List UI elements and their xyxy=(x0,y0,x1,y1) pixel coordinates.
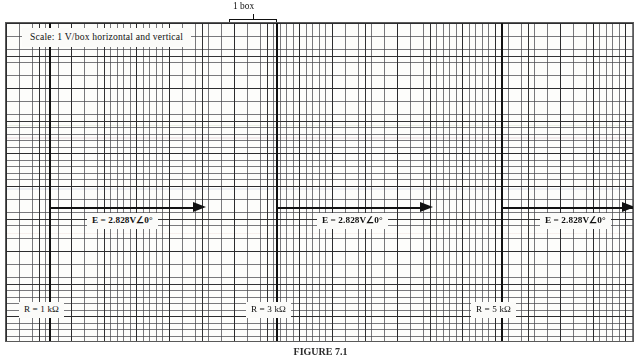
scale-note: Scale: 1 V/box horizontal and vertical xyxy=(22,28,191,47)
plot-1-axis-arrowhead xyxy=(193,202,206,212)
grid-lines xyxy=(6,23,633,341)
plot-3-horizontal-axis xyxy=(501,207,633,209)
graph-paper-sheet: Scale: 1 V/box horizontal and vertical E… xyxy=(5,22,634,342)
plot-1-resistor-label: R = 1 kΩ xyxy=(19,302,64,318)
plot-3-vertical-axis xyxy=(501,23,503,341)
plot-2-resistor-label: R = 3 kΩ xyxy=(246,302,291,318)
plot-2-vertical-axis xyxy=(276,23,278,341)
plot-1-vertical-axis xyxy=(49,23,51,341)
plot-2-source-label: E = 2.828V∠0° xyxy=(317,213,388,229)
plot-2-axis-arrowhead xyxy=(420,202,433,212)
plot-1-source-label: E = 2.828V∠0° xyxy=(87,213,158,229)
figure-caption: FIGURE 7.1 xyxy=(0,345,641,356)
plot-3-axis-arrowhead xyxy=(622,202,634,212)
plot-3-source-label: E = 2.828V∠0° xyxy=(540,213,611,229)
plot-2-horizontal-axis xyxy=(276,207,422,209)
plot-3-resistor-label: R = 5 kΩ xyxy=(471,302,516,318)
top-brace-label: 1 box xyxy=(233,1,254,11)
plot-1-horizontal-axis xyxy=(49,207,195,209)
